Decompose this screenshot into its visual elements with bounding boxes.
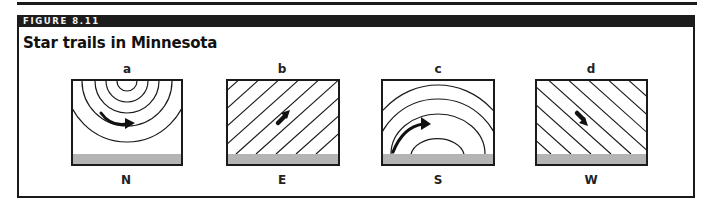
figure-title: Star trails in Minnesota [23,34,217,52]
ground-band [73,154,181,164]
star-trails-east-diagram [226,79,340,166]
ground-band [537,154,646,164]
top-rule [17,2,697,5]
star-trails-west-diagram [535,79,648,166]
panel-letter-a: a [107,62,147,76]
figure-header-band: FIGURE 8.11 [19,15,693,27]
direction-label-north: N [106,173,146,187]
star-trails-north-diagram [71,79,183,166]
panel-letter-b: b [262,62,302,76]
direction-label-south: S [418,173,458,187]
ground-band [228,154,338,164]
ground-band [383,154,493,164]
panel-letter-d: d [571,62,611,76]
figure-number: FIGURE 8.11 [23,15,100,27]
direction-label-east: E [262,173,302,187]
star-trails-south-diagram [381,79,495,166]
direction-label-west: W [571,173,611,187]
panel-letter-c: c [418,62,458,76]
